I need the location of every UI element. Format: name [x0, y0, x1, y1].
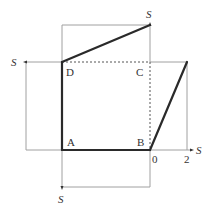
edge-d-top	[62, 25, 150, 62]
vertex-label-a: A	[67, 136, 75, 148]
tick-label-two: 2	[184, 153, 190, 165]
bottom-rect	[62, 150, 150, 187]
vertex-label-c: C	[136, 66, 143, 78]
axis-label-bottom: S	[58, 193, 64, 205]
vertex-label-b: B	[137, 136, 144, 148]
diagram-canvas: D C A B S S S S 0 2	[0, 0, 210, 213]
arrow-right-icon	[190, 149, 194, 152]
thick-edges	[62, 25, 187, 150]
tick-label-zero: 0	[152, 153, 158, 165]
edge-b-right	[150, 62, 187, 150]
arrow-bottom-icon	[61, 186, 64, 190]
vertex-label-d: D	[66, 66, 74, 78]
axis-label-right: S	[196, 144, 202, 156]
arrow-left-icon	[23, 61, 27, 64]
left-rect	[26, 62, 62, 150]
axis-label-top: S	[146, 8, 152, 20]
axis-label-left: S	[11, 56, 17, 68]
thin-frame-lines	[26, 25, 192, 187]
